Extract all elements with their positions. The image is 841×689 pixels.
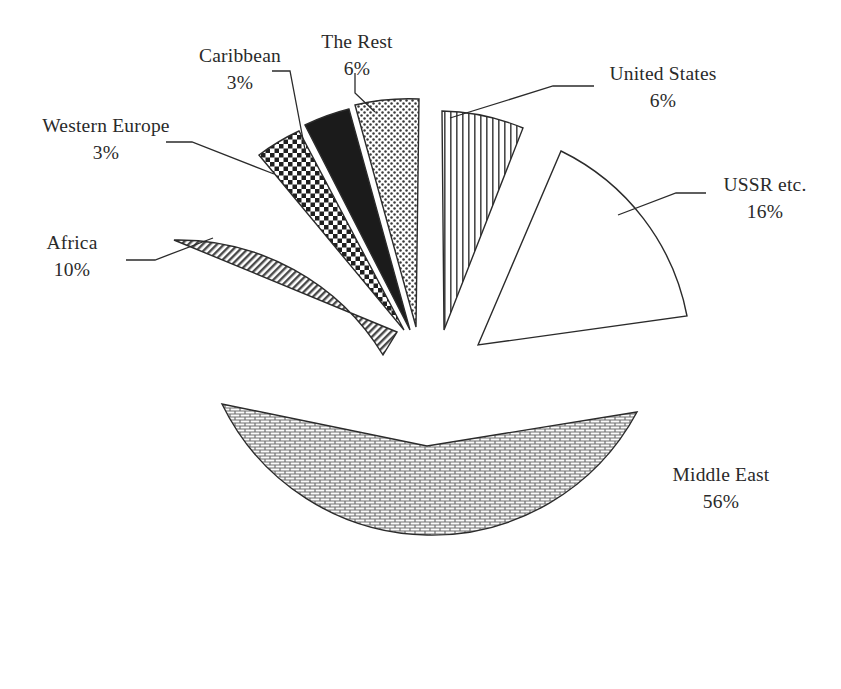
- label-western-europe-percent: 3%: [93, 142, 119, 163]
- label-the-rest-percent: 6%: [344, 58, 370, 79]
- label-africa-percent: 10%: [54, 259, 90, 280]
- leader-line-western-europe: [166, 142, 274, 174]
- label-united-states-name: United States: [609, 63, 716, 84]
- label-middle-east-percent: 56%: [703, 491, 739, 512]
- pie-slice-middle-east[interactable]: [222, 404, 637, 535]
- label-united-states-percent: 6%: [650, 90, 676, 111]
- label-caribbean-percent: 3%: [227, 72, 253, 93]
- pie-chart-figure: Western Europe 3% Caribbean 3% The Rest …: [0, 0, 841, 689]
- pie-chart-canvas: Western Europe 3% Caribbean 3% The Rest …: [0, 0, 841, 689]
- label-africa-name: Africa: [47, 232, 98, 253]
- label-middle-east-name: Middle East: [673, 464, 770, 485]
- label-the-rest-name: The Rest: [321, 31, 393, 52]
- label-western-europe-name: Western Europe: [42, 115, 169, 136]
- label-ussr-name: USSR etc.: [723, 174, 806, 195]
- label-ussr-percent: 16%: [747, 201, 783, 222]
- label-caribbean-name: Caribbean: [199, 45, 281, 66]
- pie-slice-ussr[interactable]: [478, 151, 687, 345]
